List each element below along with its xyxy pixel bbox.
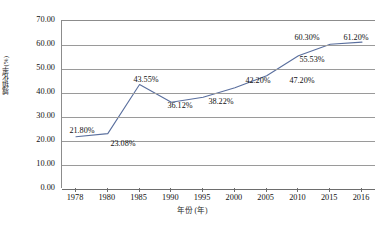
x-axis-title: 年份 (年) [0,206,384,215]
x-tick-mark [139,188,140,192]
gridline-y-10.00 [62,165,375,166]
data-point-label: 60.30% [294,34,319,43]
urbanization-rate-line-chart: 城镇化率(%) 0.0010.0020.0030.0040.0050.0060.… [0,0,384,235]
y-tick-label: 40.00 [36,88,55,96]
x-tick-label: 2000 [226,193,243,202]
data-point-label: 23.08% [110,140,135,149]
data-point-label: 42.20% [245,77,270,86]
y-tick-label: 30.00 [36,112,55,120]
gridline-y-50.00 [62,69,375,70]
x-axis-tick-labels: 1978198019851990199520002005201020152016 [61,188,375,193]
x-tick-label: 2015 [321,193,338,202]
x-tick-label: 1995 [194,193,211,202]
x-tick-mark [107,188,108,192]
x-tick-label: 1978 [67,193,84,202]
x-tick-mark [75,188,76,192]
x-tick-label: 1980 [98,193,115,202]
gridline-y-40.00 [62,93,375,94]
x-tick-label: 2010 [289,193,306,202]
x-tick-mark [170,188,171,192]
x-tick-mark [361,188,362,192]
x-tick-mark [297,188,298,192]
data-point-label: 47.20% [289,77,314,86]
x-tick-label: 1990 [162,193,179,202]
x-tick-label: 1985 [130,193,147,202]
figure-caption [0,228,384,235]
gridline-y-60.00 [62,45,375,46]
x-tick-mark [234,188,235,192]
data-point-label: 21.80% [69,127,94,136]
x-tick-mark [329,188,330,192]
x-tick-label: 2016 [353,193,370,202]
y-tick-label: 0.00 [40,184,55,192]
data-point-label: 36.12% [167,102,192,111]
data-point-label: 55.53% [299,56,324,65]
x-tick-mark [202,188,203,192]
y-axis-tick-labels: 0.0010.0020.0030.0040.0050.0060.0070.00 [14,20,58,188]
y-tick-label: 50.00 [36,64,55,72]
data-point-label: 43.55% [133,76,158,85]
y-tick-label: 20.00 [36,136,55,144]
data-point-label: 61.20% [343,34,368,43]
y-tick-label: 70.00 [36,16,55,24]
y-tick-label: 10.00 [36,160,55,168]
x-tick-label: 2005 [257,193,274,202]
gridline-y-30.00 [62,117,375,118]
data-point-label: 38.22% [208,98,233,107]
gridline-y-20.00 [62,141,375,142]
x-tick-mark [266,188,267,192]
y-tick-label: 60.00 [36,40,55,48]
